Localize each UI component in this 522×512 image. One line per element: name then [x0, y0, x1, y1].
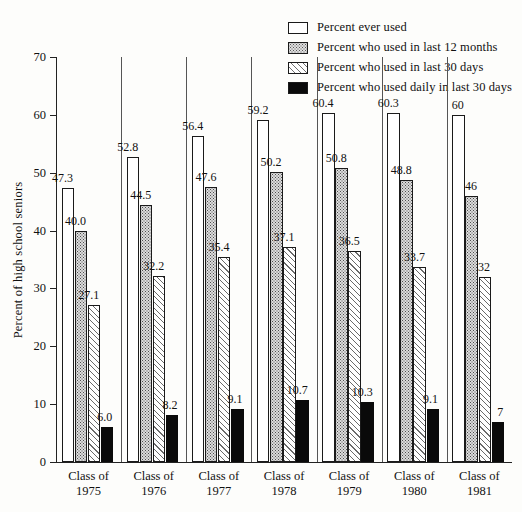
- x-axis-label: Class of1976: [121, 469, 186, 498]
- y-axis-title-text: Percent of high school seniors: [11, 182, 26, 339]
- bar-group: 59.250.237.110.7: [251, 57, 316, 462]
- bar: [479, 277, 492, 462]
- x-axis-label-line2: 1979: [317, 484, 382, 499]
- bar: [270, 172, 283, 462]
- bar-group: 60.348.833.79.1: [382, 57, 447, 462]
- bar-value-label: 40.0: [65, 214, 86, 229]
- y-axis-tick-label: 10: [18, 399, 46, 409]
- bar-group: 60.450.836.510.3: [317, 57, 382, 462]
- bar-value-label: 35.4: [208, 240, 229, 255]
- bar: [88, 305, 101, 462]
- y-axis-tick-label: 50: [18, 168, 46, 178]
- bar-group: 6046327: [447, 57, 512, 462]
- x-axis-label-line1: Class of: [121, 469, 186, 484]
- x-axis-label-line2: 1975: [56, 484, 121, 499]
- x-axis-label-line1: Class of: [447, 469, 512, 484]
- bar: [283, 247, 296, 462]
- legend-item: Percent ever used: [288, 19, 518, 36]
- bar-value-label: 46: [465, 179, 477, 194]
- bar-value-label: 60.3: [378, 96, 399, 111]
- bar-value-label: 9.1: [228, 392, 243, 407]
- bar-value-label: 10.7: [287, 383, 308, 398]
- x-axis-label-line1: Class of: [382, 469, 447, 484]
- x-axis-label: Class of1979: [317, 469, 382, 498]
- group-separator: [121, 57, 122, 462]
- bar-value-label: 48.8: [391, 163, 412, 178]
- bar: [166, 415, 179, 462]
- bar: [75, 231, 88, 462]
- plot-area: 47.340.027.16.052.844.532.28.256.447.635…: [56, 57, 512, 462]
- group-separator: [317, 57, 318, 462]
- group-separator: [251, 57, 252, 462]
- group-separator: [382, 57, 383, 462]
- x-axis-label-line2: 1977: [186, 484, 251, 499]
- x-axis-label: Class of1977: [186, 469, 251, 498]
- x-axis-label: Class of1975: [56, 469, 121, 498]
- bar-group: 56.447.635.49.1: [186, 57, 251, 462]
- bar-group: 52.844.532.28.2: [121, 57, 186, 462]
- bar: [205, 187, 218, 462]
- x-axis-label: Class of1981: [447, 469, 512, 498]
- x-axis-label-line1: Class of: [317, 469, 382, 484]
- bar: [427, 409, 440, 462]
- bar-value-label: 33.7: [404, 250, 425, 265]
- bar: [62, 188, 75, 462]
- bar-value-label: 50.8: [326, 151, 347, 166]
- bar: [153, 276, 166, 462]
- x-axis-label-line2: 1981: [447, 484, 512, 499]
- bar-value-label: 52.8: [117, 140, 138, 155]
- bar-value-label: 6.0: [97, 410, 112, 425]
- bar-value-label: 60: [452, 98, 464, 113]
- bar: [452, 115, 465, 462]
- y-axis-tick-label: 40: [18, 226, 46, 236]
- y-axis-tick: [50, 462, 57, 463]
- bar: [296, 400, 309, 462]
- bar-value-label: 36.5: [339, 234, 360, 249]
- bar: [361, 402, 374, 462]
- x-axis-line: [56, 462, 512, 463]
- y-axis-tick-label: 0: [18, 457, 46, 467]
- bar-value-label: 27.1: [78, 288, 99, 303]
- legend-swatch-icon: [288, 22, 308, 34]
- bar: [465, 196, 478, 462]
- x-axis-label-line2: 1980: [382, 484, 447, 499]
- bar-value-label: 10.3: [352, 385, 373, 400]
- bar-value-label: 37.1: [274, 230, 295, 245]
- bar-value-label: 32: [478, 260, 490, 275]
- x-axis-label-line2: 1976: [121, 484, 186, 499]
- legend-item-label: Percent ever used: [317, 21, 407, 34]
- bar-value-label: 7: [497, 405, 503, 420]
- bar-value-label: 60.4: [313, 96, 334, 111]
- y-axis-tick-label: 30: [18, 283, 46, 293]
- bar-group: 47.340.027.16.0: [56, 57, 121, 462]
- bar-value-label: 44.5: [130, 188, 151, 203]
- legend-item-label: Percent who used in last 12 months: [317, 41, 497, 54]
- bar-value-label: 47.6: [195, 170, 216, 185]
- bar-value-label: 8.2: [162, 398, 177, 413]
- x-axis-label: Class of1980: [382, 469, 447, 498]
- bar: [218, 257, 231, 462]
- bar: [231, 409, 244, 462]
- group-separator: [447, 57, 448, 462]
- x-axis-label: Class of1978: [251, 469, 316, 498]
- bar-value-label: 47.3: [52, 171, 73, 186]
- legend-swatch-icon: [288, 42, 308, 54]
- bar-value-label: 59.2: [247, 103, 268, 118]
- bar-value-label: 56.4: [182, 119, 203, 134]
- bar: [492, 422, 505, 463]
- bar-value-label: 9.1: [423, 392, 438, 407]
- y-axis-tick-label: 60: [18, 110, 46, 120]
- x-axis-label-line1: Class of: [56, 469, 121, 484]
- y-axis-tick-label: 20: [18, 341, 46, 351]
- y-axis-title: Percent of high school seniors: [8, 120, 28, 400]
- bar: [348, 251, 361, 462]
- bar: [101, 427, 114, 462]
- bar-value-label: 32.2: [143, 259, 164, 274]
- x-axis-label-line1: Class of: [186, 469, 251, 484]
- bar: [257, 120, 270, 463]
- bar: [192, 136, 205, 462]
- y-axis-tick-label: 70: [18, 52, 46, 62]
- bar: [400, 180, 413, 462]
- bar: [413, 267, 426, 462]
- legend-item: Percent who used in last 12 months: [288, 39, 518, 56]
